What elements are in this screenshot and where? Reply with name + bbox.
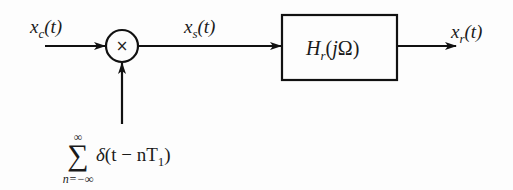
sampling-block-diagram: × xc(t) xs(t) Hr(jΩ) xr(t) ∞ ∑ n=−∞ δ(t …: [0, 0, 513, 190]
diagram-canvas: × xc(t) xs(t) Hr(jΩ) xr(t) ∞ ∑ n=−∞ δ(t …: [0, 0, 513, 190]
input-signal-label: xc(t): [29, 16, 62, 41]
summation-icon: ∑: [67, 138, 88, 172]
multiply-icon: ×: [116, 37, 129, 55]
multiplier-node: ×: [106, 30, 138, 62]
impulse-train-label: ∞ ∑ n=−∞ δ(t − nT1): [63, 130, 171, 186]
sum-lower-limit: n=−∞: [63, 172, 94, 186]
sampled-signal-label: xs(t): [183, 16, 215, 41]
filter-label: Hr(jΩ): [305, 37, 359, 63]
output-signal-label: xr(t): [450, 21, 482, 46]
delta-expression: δ(t − nT1): [96, 144, 171, 169]
